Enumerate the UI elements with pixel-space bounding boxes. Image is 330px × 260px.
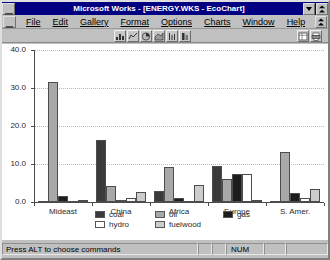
legend-label-coal: coal bbox=[109, 210, 124, 219]
menu-item-help[interactable]: Help bbox=[281, 16, 312, 28]
menu-label-edit: Edit bbox=[53, 17, 69, 27]
bar-gas-samer[interactable] bbox=[290, 193, 299, 202]
menu-label-window: Window bbox=[243, 17, 275, 27]
bar-oil-europe[interactable] bbox=[222, 179, 231, 202]
minimize-icon[interactable] bbox=[303, 3, 315, 15]
document-system-menu-icon[interactable] bbox=[3, 16, 16, 28]
bar-hydro-europe[interactable] bbox=[242, 174, 251, 202]
legend-swatch-hydro bbox=[95, 221, 105, 228]
menu-item-gallery[interactable]: Gallery bbox=[74, 16, 115, 28]
system-menu-icon[interactable] bbox=[2, 3, 15, 15]
bar-hydro-africa[interactable] bbox=[184, 201, 193, 203]
bar-fuelwood-china[interactable] bbox=[136, 192, 145, 202]
menu-label-format: Format bbox=[121, 17, 150, 27]
bar-hydro-mideast[interactable] bbox=[68, 201, 77, 203]
legend-swatch-fuelwood bbox=[155, 221, 165, 228]
x-axis-tick bbox=[34, 203, 35, 206]
bar-chart-icon[interactable] bbox=[114, 30, 126, 42]
gridline bbox=[34, 126, 324, 127]
chart-document[interactable]: 0.010.020.030.040.0MideastChinaAfricaEur… bbox=[2, 44, 328, 240]
status-message: Press ALT to choose commands bbox=[2, 243, 198, 255]
area-chart-icon[interactable] bbox=[153, 30, 165, 42]
bar-gas-africa[interactable] bbox=[174, 198, 183, 202]
bar-coal-africa[interactable] bbox=[154, 191, 163, 202]
bar-fuelwood-mideast[interactable] bbox=[78, 200, 87, 202]
line-chart-icon[interactable] bbox=[127, 30, 139, 42]
menu-item-file[interactable]: File bbox=[20, 16, 47, 28]
bar-gas-china[interactable] bbox=[116, 200, 125, 202]
status-slot-4 bbox=[286, 243, 328, 255]
bar-hydro-samer[interactable] bbox=[300, 198, 309, 202]
menu-item-options[interactable]: Options bbox=[155, 16, 198, 28]
restore-icon[interactable] bbox=[316, 3, 328, 15]
spreadsheet-icon[interactable] bbox=[297, 30, 309, 42]
bar-fuelwood-samer[interactable] bbox=[310, 189, 319, 202]
title-bar[interactable]: Microsoft Works - [ENERGY.WKS - EcoChart… bbox=[2, 2, 328, 15]
gridline bbox=[34, 88, 324, 89]
legend-swatch-gas bbox=[223, 211, 233, 218]
pie-chart-icon[interactable] bbox=[140, 30, 152, 42]
bar-oil-africa[interactable] bbox=[164, 167, 173, 202]
y-axis-label: 20.0 bbox=[2, 122, 26, 130]
gridline bbox=[34, 50, 324, 51]
legend-item-coal[interactable]: coal bbox=[95, 209, 155, 219]
bar-fuelwood-africa[interactable] bbox=[194, 185, 203, 202]
x-axis-tick bbox=[150, 203, 151, 206]
status-slot-1 bbox=[198, 243, 212, 255]
legend-item-fuelwood[interactable]: fuelwood bbox=[155, 219, 223, 229]
menu-items: File Edit Gallery Format Options Charts … bbox=[20, 16, 311, 28]
window-controls bbox=[303, 3, 328, 15]
toolbar bbox=[2, 29, 328, 43]
bar-coal-samer[interactable] bbox=[270, 201, 279, 203]
menu-label-gallery: Gallery bbox=[80, 17, 109, 27]
bar-oil-china[interactable] bbox=[106, 186, 115, 202]
x-axis-tick bbox=[324, 203, 325, 206]
document-system-menu-glyph bbox=[6, 26, 13, 28]
legend-item-oil[interactable]: oil bbox=[155, 209, 223, 219]
application-window: Microsoft Works - [ENERGY.WKS - EcoChart… bbox=[0, 0, 330, 260]
legend-label-gas: gas bbox=[237, 210, 250, 219]
status-bar: Press ALT to choose commands NUM bbox=[2, 242, 328, 256]
bar-oil-mideast[interactable] bbox=[48, 82, 57, 202]
stacked-bar-chart-icon[interactable] bbox=[179, 30, 191, 42]
status-slot-3 bbox=[264, 243, 286, 255]
menu-label-file: File bbox=[26, 17, 41, 27]
status-slot-2 bbox=[212, 243, 226, 255]
bar-gas-mideast[interactable] bbox=[58, 196, 67, 202]
legend-label-hydro: hydro bbox=[109, 220, 129, 229]
legend-item-gas[interactable]: gas bbox=[223, 209, 283, 219]
bar-gas-europe[interactable] bbox=[232, 174, 241, 203]
y-axis-label: 10.0 bbox=[2, 160, 26, 168]
bar-oil-samer[interactable] bbox=[280, 152, 289, 202]
x-axis-category-label: Mideast bbox=[34, 207, 92, 216]
bar-hydro-china[interactable] bbox=[126, 198, 135, 202]
menu-bar: File Edit Gallery Format Options Charts … bbox=[2, 15, 328, 29]
menu-label-charts: Charts bbox=[204, 17, 231, 27]
view-tool-group bbox=[297, 30, 322, 42]
legend-item-hydro[interactable]: hydro bbox=[95, 219, 155, 229]
menu-item-format[interactable]: Format bbox=[115, 16, 156, 28]
menu-item-window[interactable]: Window bbox=[237, 16, 281, 28]
window-title: Microsoft Works - [ENERGY.WKS - EcoChart… bbox=[15, 4, 303, 13]
bar-fuelwood-europe[interactable] bbox=[252, 200, 261, 202]
menu-label-options: Options bbox=[161, 17, 192, 27]
document-restore-icon[interactable] bbox=[315, 16, 327, 28]
x-axis-tick bbox=[208, 203, 209, 206]
bar-coal-china[interactable] bbox=[96, 140, 105, 202]
menu-item-charts[interactable]: Charts bbox=[198, 16, 237, 28]
legend-label-oil: oil bbox=[169, 210, 177, 219]
bar-coal-mideast[interactable] bbox=[38, 201, 47, 203]
y-axis-label: 30.0 bbox=[2, 84, 26, 92]
menu-item-edit[interactable]: Edit bbox=[47, 16, 75, 28]
y-axis-label: 40.0 bbox=[2, 46, 26, 54]
document-window-controls bbox=[315, 16, 327, 28]
hilo-chart-icon[interactable] bbox=[166, 30, 178, 42]
status-num-indicator: NUM bbox=[226, 243, 264, 255]
legend-label-fuelwood: fuelwood bbox=[169, 220, 201, 229]
x-axis-tick bbox=[92, 203, 93, 206]
chart-legend: coaloilgashydrofuelwood bbox=[95, 209, 283, 229]
y-axis-label: 0.0 bbox=[2, 198, 26, 206]
bar-coal-europe[interactable] bbox=[212, 166, 221, 202]
printer-icon[interactable] bbox=[310, 30, 322, 42]
legend-swatch-coal bbox=[95, 211, 105, 218]
